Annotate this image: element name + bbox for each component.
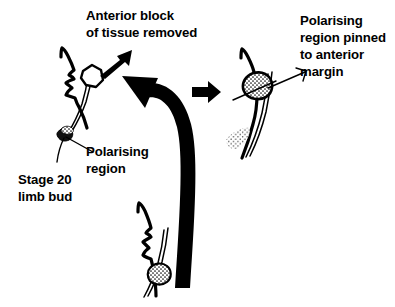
anterior-block-line1: Anterior block: [86, 8, 175, 23]
anterior-block-line2: of tissue removed: [86, 25, 197, 40]
stage-20-line2: limb bud: [18, 189, 72, 204]
block-removal-arrow: [100, 50, 132, 79]
host-limb-bud-outline: [61, 48, 87, 128]
excised-anterior-block-group: [81, 50, 132, 87]
label-polarising-region-pinned: Polarising region pinned to anterior mar…: [300, 13, 386, 79]
polarising-region-line1: Polarising: [86, 144, 149, 159]
grafted-polarising-region: [243, 72, 272, 99]
figure-root: Anterior block of tissue removed Polaris…: [0, 0, 395, 307]
stage-20-line1: Stage 20: [18, 172, 71, 187]
pinned-line4: margin: [300, 64, 343, 79]
operated-limb-bud-group: [226, 49, 306, 158]
result-arrow-glyph: [192, 81, 221, 103]
pinned-line3: to anterior: [300, 47, 364, 62]
diagram-canvas: Anterior block of tissue removed Polaris…: [0, 0, 395, 307]
pinned-line2: region pinned: [300, 30, 386, 45]
result-arrow: [192, 81, 221, 103]
label-polarising-region: Polarising region: [86, 144, 149, 176]
donor-limb-bud-group: [138, 203, 171, 297]
polarising-region-line2: region: [86, 161, 126, 176]
pinned-line1: Polarising: [300, 13, 363, 28]
donor-polarising-region-block: [148, 264, 171, 285]
graft-curved-arrow: [122, 76, 195, 288]
leader-to-stage20-label: [57, 138, 64, 162]
excised-anterior-block: [81, 65, 103, 87]
host-polarising-region-stipple-cap: [61, 126, 73, 134]
label-stage-20-limb-bud: Stage 20 limb bud: [18, 172, 72, 204]
label-anterior-block: Anterior block of tissue removed: [86, 8, 197, 40]
